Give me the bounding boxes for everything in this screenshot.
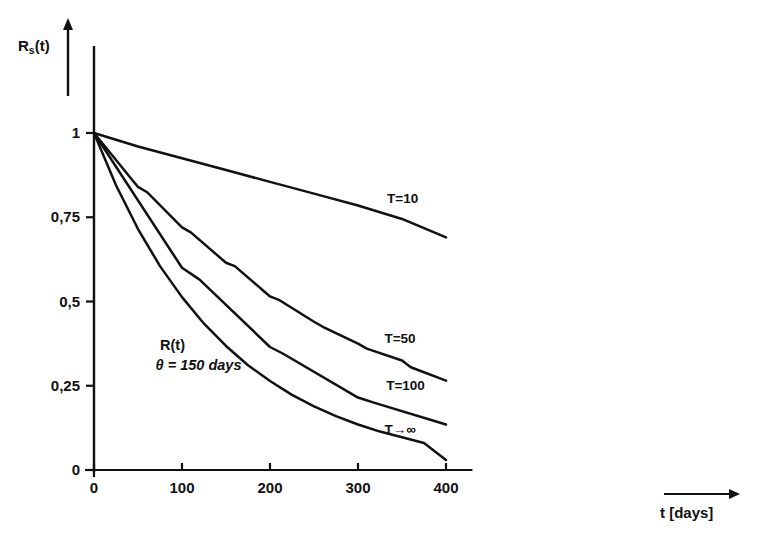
- x-tick-label: 100: [142, 480, 222, 495]
- x-tick-label: 300: [318, 480, 398, 495]
- y-tick-label: 0: [10, 462, 80, 477]
- curve-label-t100: T=100: [386, 379, 425, 393]
- y-axis-title-subscript: s: [29, 44, 35, 56]
- annotation-theta: θ = 150 days: [156, 358, 242, 373]
- curve-label-t10: T=10: [387, 192, 418, 206]
- y-axis-title-main: R: [18, 37, 29, 54]
- x-direction-arrow-head: [729, 489, 740, 499]
- chart-canvas: [0, 0, 760, 545]
- chart-figure: Rs(t) t [days] 00,250,50,751010020030040…: [0, 0, 760, 545]
- y-axis-title: Rs(t): [18, 38, 50, 53]
- curve-t10: [94, 133, 446, 237]
- x-axis-title: t [days]: [660, 505, 713, 520]
- x-tick-label: 200: [230, 480, 310, 495]
- y-tick-label: 1: [10, 125, 80, 140]
- curve-label-t: T→∞: [384, 423, 415, 437]
- data-curves-group: [94, 133, 446, 460]
- x-tick-label: 400: [406, 480, 486, 495]
- y-direction-arrow-head: [63, 18, 73, 30]
- x-tick-label: 0: [54, 480, 134, 495]
- y-tick-label: 0,75: [10, 209, 80, 224]
- curve-label-t50: T=50: [384, 332, 415, 346]
- axes-group: [85, 46, 472, 472]
- y-tick-label: 0,5: [10, 294, 80, 309]
- y-axis-title-tail: (t): [35, 37, 50, 54]
- annotation-rt: R(t): [160, 338, 185, 353]
- y-tick-label: 0,25: [10, 378, 80, 393]
